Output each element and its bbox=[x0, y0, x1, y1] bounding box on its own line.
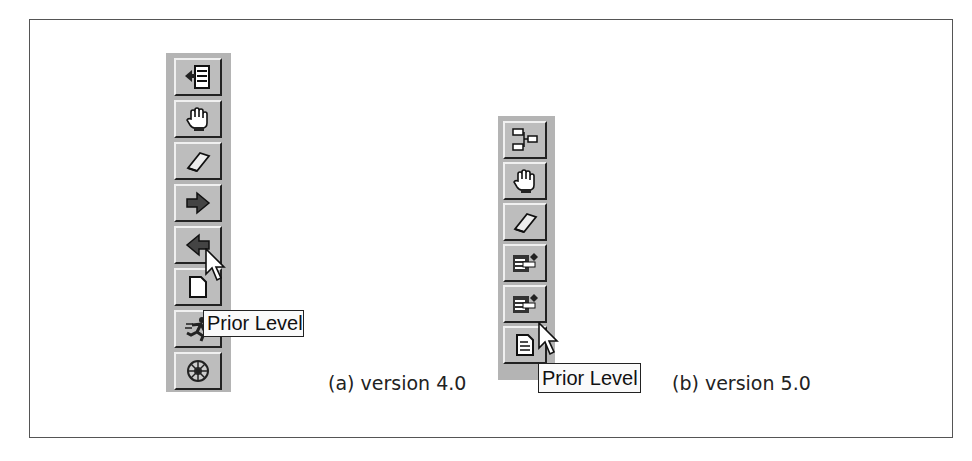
document-icon bbox=[513, 332, 537, 358]
next-level-button[interactable] bbox=[503, 244, 547, 282]
mouse-pointer-icon bbox=[538, 322, 562, 358]
hand-button[interactable] bbox=[174, 100, 222, 138]
wheel-button[interactable] bbox=[174, 352, 222, 390]
folder-prior-level-icon bbox=[510, 291, 540, 317]
tooltip-prior-level: Prior Level bbox=[538, 363, 641, 393]
toolbar-version-4 bbox=[166, 53, 231, 392]
outline-collapse-button[interactable] bbox=[503, 121, 547, 159]
hand-icon bbox=[512, 167, 538, 195]
outline-collapse-icon bbox=[510, 126, 540, 154]
hand-icon bbox=[185, 105, 211, 133]
wheel-icon bbox=[184, 357, 212, 385]
eraser-icon bbox=[511, 209, 539, 235]
caption-version-4: (a) version 4.0 bbox=[328, 372, 466, 394]
eraser-button[interactable] bbox=[503, 203, 547, 241]
indent-list-button[interactable] bbox=[174, 58, 222, 96]
eraser-button[interactable] bbox=[174, 142, 222, 180]
hand-button[interactable] bbox=[503, 162, 547, 200]
prior-level-button[interactable] bbox=[503, 285, 547, 323]
mouse-pointer-icon bbox=[205, 248, 229, 284]
next-button[interactable] bbox=[174, 184, 222, 222]
eraser-icon bbox=[184, 148, 212, 174]
caption-version-5: (b) version 5.0 bbox=[672, 372, 811, 394]
arrow-right-icon bbox=[184, 190, 212, 216]
folder-next-level-icon bbox=[510, 250, 540, 276]
indent-list-icon bbox=[183, 63, 213, 91]
tooltip-prior-level: Prior Level bbox=[203, 310, 304, 337]
